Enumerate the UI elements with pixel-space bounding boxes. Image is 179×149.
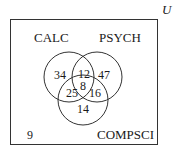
region-none: 9 (27, 128, 33, 142)
universe-label: U (162, 2, 173, 17)
set-label-psych: PSYCH (99, 30, 141, 45)
region-psych-compsci: 16 (89, 86, 101, 100)
region-psych-only: 47 (98, 68, 110, 82)
region-compsci-only: 14 (77, 102, 89, 116)
venn-diagram: U CALC PSYCH COMPSCI 34 12 47 8 25 16 14… (0, 0, 179, 149)
region-calc-compsci: 25 (66, 86, 78, 100)
set-label-calc: CALC (34, 30, 69, 45)
set-label-compsci: COMPSCI (97, 127, 154, 142)
region-calc-only: 34 (54, 68, 66, 82)
region-all-three: 8 (80, 79, 86, 93)
